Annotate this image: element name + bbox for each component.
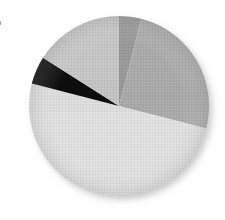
pie-chart-figure: b — [0, 0, 225, 220]
pie-chart-plot-area — [0, 0, 225, 220]
pie-disc-vignette — [29, 16, 209, 196]
pie-chart-svg — [0, 0, 225, 220]
